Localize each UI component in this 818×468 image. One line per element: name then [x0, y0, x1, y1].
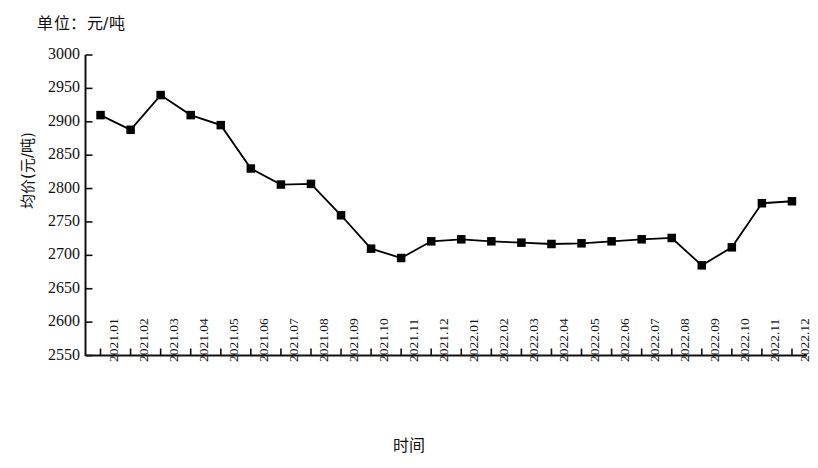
x-tick-label: 2021.08 — [316, 318, 332, 362]
x-tick-label: 2021.10 — [376, 318, 392, 362]
x-tick-label: 2021.02 — [136, 318, 152, 362]
x-tick-label: 2022.12 — [797, 318, 813, 362]
data-point-marker — [758, 199, 767, 208]
x-tick-label: 2022.02 — [496, 318, 512, 362]
data-point-marker — [517, 238, 526, 247]
data-point-marker — [217, 121, 226, 129]
data-point-marker — [337, 211, 346, 220]
x-tick-label: 2021.06 — [256, 318, 272, 362]
data-point-marker — [547, 240, 556, 249]
data-point-marker — [457, 235, 466, 244]
axis-frame — [86, 55, 808, 356]
x-tick-label: 2021.05 — [226, 318, 242, 362]
x-tick-label: 2022.05 — [587, 318, 603, 362]
line-chart-plot — [0, 0, 818, 468]
data-point-marker — [667, 234, 676, 243]
y-tick-marks — [86, 55, 93, 356]
x-tick-label: 2022.09 — [707, 318, 723, 362]
x-tick-label: 2022.10 — [737, 318, 753, 362]
x-tick-label: 2022.07 — [647, 318, 663, 362]
x-tick-label: 2021.12 — [436, 318, 452, 362]
data-point-marker — [397, 254, 406, 263]
data-point-marker — [156, 91, 165, 100]
x-tick-label: 2022.04 — [556, 318, 572, 362]
x-tick-label: 2021.01 — [106, 318, 122, 362]
data-point-marker — [96, 111, 105, 120]
x-tick-label: 2021.07 — [286, 318, 302, 362]
chart-figure: 单位：元/吨 均价(元/吨) 2550260026502700275028002… — [0, 0, 818, 468]
x-axis-title: 时间 — [0, 432, 818, 456]
data-point-marker — [577, 239, 586, 248]
data-point-markers — [96, 91, 796, 270]
x-tick-label: 2022.08 — [677, 318, 693, 362]
x-tick-label: 2022.01 — [466, 318, 482, 362]
data-point-marker — [637, 235, 646, 244]
x-tick-label: 2021.09 — [346, 318, 362, 362]
data-point-marker — [427, 237, 436, 246]
data-point-marker — [788, 197, 797, 206]
x-tick-label: 2021.03 — [166, 318, 182, 362]
data-point-marker — [277, 180, 286, 189]
x-tick-label: 2022.03 — [526, 318, 542, 362]
data-point-marker — [307, 180, 316, 189]
x-tick-label: 2021.11 — [406, 318, 422, 361]
data-point-marker — [698, 261, 707, 270]
x-tick-label: 2021.04 — [196, 318, 212, 362]
x-tick-label: 2022.06 — [617, 318, 633, 362]
data-point-marker — [607, 237, 616, 246]
data-point-marker — [186, 111, 195, 120]
data-point-marker — [126, 126, 135, 135]
data-point-marker — [487, 237, 496, 246]
data-point-marker — [367, 244, 376, 253]
data-point-marker — [247, 164, 256, 173]
data-point-marker — [728, 243, 737, 252]
data-series-line — [101, 95, 792, 265]
x-tick-label: 2022.11 — [767, 318, 783, 361]
